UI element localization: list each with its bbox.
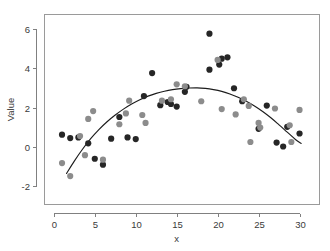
scatter-point — [149, 70, 155, 76]
scatter-point — [139, 112, 145, 118]
scatter-point — [92, 156, 98, 162]
scatter-point — [288, 139, 294, 145]
scatter-point — [231, 85, 237, 91]
scatter-point — [142, 120, 148, 126]
scatter-series-dark — [59, 31, 303, 168]
scatter-point — [159, 98, 165, 104]
scatter-point — [206, 67, 212, 73]
scatter-point — [100, 157, 106, 163]
scatter-point — [174, 103, 180, 109]
scatter-point — [85, 116, 91, 122]
scatter-point — [296, 130, 302, 136]
scatter-point — [67, 173, 73, 179]
plot-frame — [45, 15, 320, 205]
scatter-point — [273, 139, 279, 145]
scatter-point — [215, 57, 221, 63]
y-tick-label: 4 — [25, 63, 30, 74]
scatter-point — [296, 107, 302, 113]
x-tick-label: 5 — [93, 219, 98, 230]
scatter-point — [233, 111, 239, 117]
x-tick-label: 20 — [213, 219, 224, 230]
scatter-point — [124, 134, 130, 140]
scatter-point — [280, 143, 286, 149]
scatter-point — [168, 96, 174, 102]
scatter-point — [246, 103, 252, 109]
x-tick-label: 30 — [295, 219, 306, 230]
y-tick-label: 0 — [25, 142, 30, 153]
scatter-point — [116, 114, 122, 120]
x-tick-label: 10 — [131, 219, 142, 230]
scatter-point — [59, 160, 65, 166]
scatter-point — [247, 139, 253, 145]
y-tick-label: 2 — [25, 103, 30, 114]
chart-canvas: -20246051015202530xValue — [0, 0, 330, 251]
scatter-plot-figure: -20246051015202530xValue — [0, 0, 330, 251]
scatter-point — [219, 106, 225, 112]
scatter-point — [82, 152, 88, 158]
y-tick-label: 6 — [25, 24, 30, 35]
scatter-point — [108, 136, 114, 142]
scatter-point — [90, 108, 96, 114]
scatter-point — [198, 98, 204, 104]
scatter-point — [174, 81, 180, 87]
scatter-point — [287, 122, 293, 128]
y-axis-title: Value — [5, 98, 16, 122]
x-tick-label: 25 — [254, 219, 265, 230]
scatter-point — [257, 125, 263, 131]
scatter-point — [116, 121, 122, 127]
scatter-point — [272, 105, 278, 111]
scatter-point — [59, 132, 65, 138]
scatter-point — [126, 98, 132, 104]
scatter-point — [77, 133, 83, 139]
scatter-point — [224, 54, 230, 60]
scatter-point — [67, 135, 73, 141]
scatter-point — [85, 140, 91, 146]
scatter-point — [141, 93, 147, 99]
scatter-point — [182, 83, 188, 89]
y-tick-label: -2 — [22, 181, 30, 192]
x-axis-title: x — [174, 233, 179, 244]
x-tick-label: 15 — [172, 219, 183, 230]
scatter-point — [123, 110, 129, 116]
scatter-point — [264, 102, 270, 108]
scatter-point — [206, 31, 212, 37]
scatter-point — [241, 96, 247, 102]
scatter-point — [133, 136, 139, 142]
x-tick-label: 0 — [52, 219, 57, 230]
